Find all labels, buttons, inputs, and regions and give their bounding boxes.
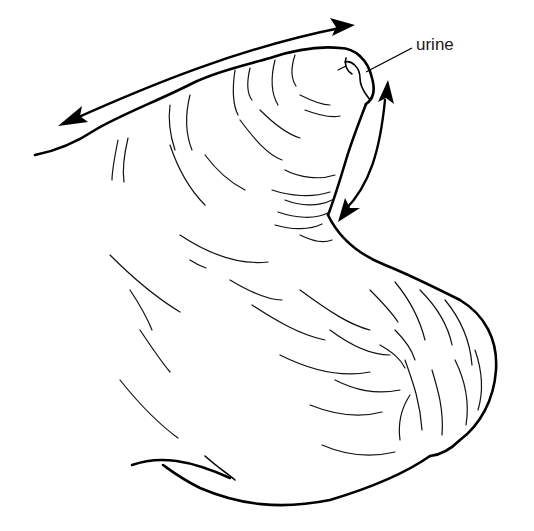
arrow-head-down-icon [338,198,360,222]
arrow-head-right-icon [330,18,355,36]
side-double-arrow [338,80,394,222]
organ-illustration [0,0,534,531]
label-urine: urine [416,36,454,53]
organ-wrinkles [110,55,482,455]
urine-leader-line [366,48,412,72]
top-double-arrow [58,18,355,126]
